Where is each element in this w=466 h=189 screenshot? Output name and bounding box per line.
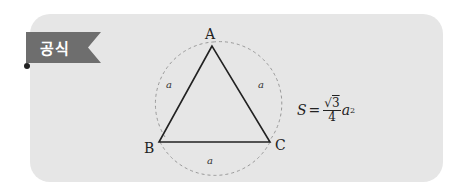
- formula-variable: a: [342, 102, 350, 118]
- fraction-numerator: √3: [323, 96, 340, 111]
- side-bottom-label: a: [207, 155, 213, 166]
- vertex-c-label: C: [275, 137, 286, 153]
- formula-lhs: S: [297, 102, 307, 118]
- fraction-denominator: 4: [328, 111, 336, 124]
- formula-equals: =: [309, 102, 321, 118]
- formula-exponent: 2: [350, 106, 355, 115]
- formula-fraction: √3 4: [323, 96, 340, 124]
- triangle-diagram: [0, 0, 466, 189]
- side-left-label: a: [166, 79, 172, 90]
- sqrt-icon: √: [324, 96, 332, 110]
- area-formula: S = √3 4 a2: [297, 96, 355, 124]
- vertex-a-label: A: [205, 26, 215, 42]
- vertex-b-label: B: [144, 140, 154, 156]
- side-right-label: a: [258, 79, 264, 90]
